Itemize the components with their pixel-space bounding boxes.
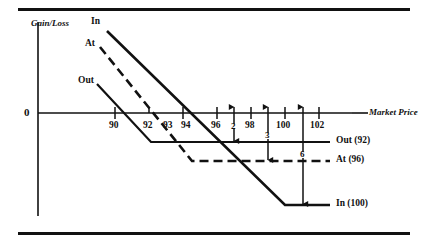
in-end-label: In (100) (336, 199, 368, 209)
tick-label-96: 96 (211, 121, 221, 131)
in-payoff-line (107, 31, 330, 205)
payoff-diagram-figure: Gain/Loss Market Price 0 90 92 93 94 96 … (0, 0, 424, 247)
out-label: Out (78, 76, 94, 86)
measure-2-label: 2 (231, 122, 236, 131)
at-end-label: At (96) (336, 155, 364, 165)
tick-label-92: 92 (143, 121, 153, 131)
out-end-label: Out (92) (336, 136, 370, 146)
measure-6-label: 6 (300, 150, 305, 159)
tick-label-98: 98 (245, 121, 255, 131)
origin-label: 0 (24, 107, 30, 118)
tick-label-93: 93 (163, 121, 173, 131)
at-payoff-line (100, 47, 330, 161)
in-label: In (91, 17, 100, 27)
tick-label-94: 94 (181, 121, 191, 131)
y-axis-label: Gain/Loss (31, 19, 69, 28)
measure-3-label: 3 (265, 131, 270, 140)
tick-label-102: 102 (310, 121, 324, 131)
tick-label-100: 100 (276, 121, 290, 131)
tick-label-90: 90 (109, 121, 119, 131)
x-axis-label: Market Price (369, 108, 418, 117)
at-label: At (85, 39, 95, 49)
